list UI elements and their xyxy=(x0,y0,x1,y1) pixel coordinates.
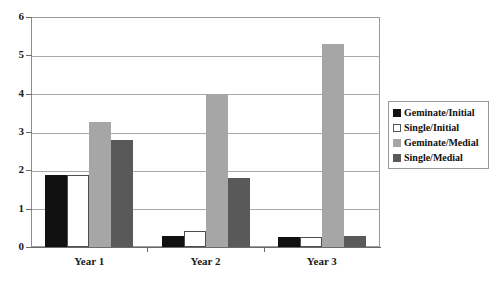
x-axis-tick xyxy=(147,247,148,252)
bar-year-1-series-2 xyxy=(89,122,111,247)
bar-year-3-series-1 xyxy=(300,237,322,247)
legend-swatch-icon xyxy=(393,124,401,132)
legend-swatch-icon xyxy=(393,139,401,147)
y-axis-tick-label: 1 xyxy=(2,203,24,214)
x-axis-label-year-3: Year 3 xyxy=(264,256,380,267)
legend-label: Single/Initial xyxy=(404,123,459,133)
y-axis-tick-label: 6 xyxy=(2,11,24,22)
bar-chart: 0123456 Year 1Year 2Year 3 Geminate/Init… xyxy=(0,0,495,282)
x-axis-label-year-2: Year 2 xyxy=(147,256,263,267)
bar-year-1-series-1 xyxy=(67,175,89,247)
bar-year-1-series-3 xyxy=(111,140,133,247)
x-axis-label-year-1: Year 1 xyxy=(31,256,147,267)
bar-year-2-series-1 xyxy=(184,231,206,247)
chart-legend: Geminate/InitialSingle/InitialGeminate/M… xyxy=(388,101,489,169)
legend-item-single-initial[interactable]: Single/Initial xyxy=(393,121,485,134)
y-axis-tick-label: 0 xyxy=(2,241,24,252)
legend-item-single-medial[interactable]: Single/Medial xyxy=(393,151,485,164)
x-axis-tick xyxy=(264,247,265,252)
legend-item-geminate-medial[interactable]: Geminate/Medial xyxy=(393,136,485,149)
y-axis-tick-label: 2 xyxy=(2,164,24,175)
y-axis-tick-label: 5 xyxy=(2,49,24,60)
legend-label: Single/Medial xyxy=(404,153,463,163)
y-axis-tick-label: 4 xyxy=(2,88,24,99)
bar-year-3-series-0 xyxy=(278,237,300,247)
bar-year-3-series-2 xyxy=(322,44,344,247)
y-axis-tick-label: 3 xyxy=(2,126,24,137)
legend-label: Geminate/Medial xyxy=(404,138,478,148)
bars-container xyxy=(31,17,380,247)
bar-year-2-series-2 xyxy=(206,94,228,247)
legend-label: Geminate/Initial xyxy=(404,108,475,118)
x-axis-line xyxy=(31,247,381,248)
bar-year-3-series-3 xyxy=(344,236,366,247)
bar-year-2-series-3 xyxy=(228,178,250,247)
legend-swatch-icon xyxy=(393,154,401,162)
legend-swatch-icon xyxy=(393,109,401,117)
legend-item-geminate-initial[interactable]: Geminate/Initial xyxy=(393,106,485,119)
bar-year-1-series-0 xyxy=(45,175,67,247)
bar-year-2-series-0 xyxy=(162,236,184,248)
y-axis-labels: 0123456 xyxy=(0,0,24,282)
